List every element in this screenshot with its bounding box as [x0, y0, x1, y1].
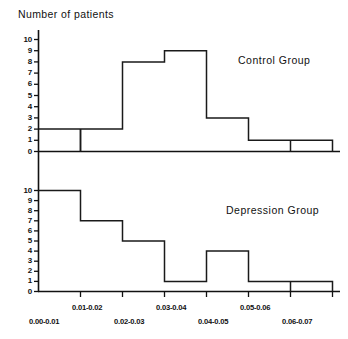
depression-histogram-outline	[39, 191, 333, 292]
depression-ytick-0: 0	[18, 288, 32, 296]
xtick-label-0: 0.00-0.01	[29, 317, 59, 326]
control-ytick-9: 9	[18, 47, 32, 55]
control-ytick-10: 10	[14, 36, 32, 44]
depression-ytick-6: 6	[18, 227, 32, 235]
control-ytick-6: 6	[18, 80, 32, 88]
depression-ytick-9: 9	[18, 197, 32, 205]
depression-ytick-7: 7	[18, 217, 32, 225]
depression-ytick-8: 8	[18, 207, 32, 215]
xtick-label-3: 0.03-0.04	[156, 303, 186, 312]
control-ytick-7: 7	[18, 69, 32, 77]
depression-ytick-5: 5	[18, 237, 32, 245]
depression-ytick-3: 3	[18, 257, 32, 265]
control-ytick-1: 1	[18, 136, 32, 144]
depression-ytick-2: 2	[18, 267, 32, 275]
control-ytick-5: 5	[18, 92, 32, 100]
xtick-label-4: 0.04-0.05	[198, 317, 228, 326]
depression-ytick-10: 10	[14, 187, 32, 195]
control-ytick-0: 0	[18, 148, 32, 156]
xtick-label-5: 0.05-0.06	[240, 303, 270, 312]
xtick-label-2: 0.02-0.03	[114, 317, 144, 326]
control-ytick-4: 4	[18, 103, 32, 111]
depression-ytick-4: 4	[18, 247, 32, 255]
xtick-label-1: 0.01-0.02	[72, 303, 102, 312]
depression-ytick-1: 1	[18, 277, 32, 285]
plot-canvas	[0, 0, 348, 339]
control-ytick-2: 2	[18, 125, 32, 133]
control-histogram-outline	[39, 51, 333, 152]
x-tickmarks	[81, 292, 333, 298]
control-ytick-3: 3	[18, 114, 32, 122]
xtick-label-6: 0.06-0.07	[282, 317, 312, 326]
histogram-figure: Number of patients Control Group Depress…	[0, 0, 348, 339]
control-ytick-8: 8	[18, 58, 32, 66]
